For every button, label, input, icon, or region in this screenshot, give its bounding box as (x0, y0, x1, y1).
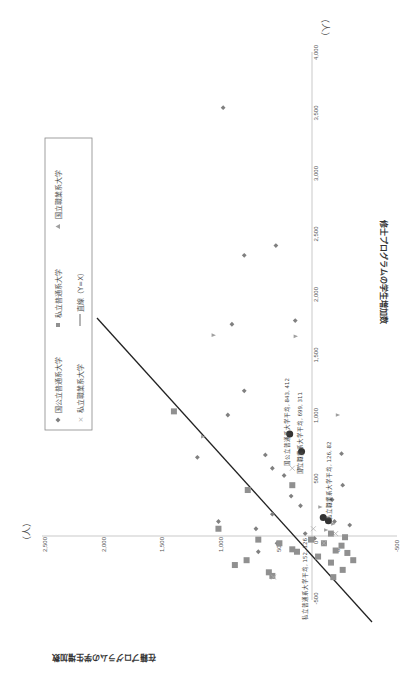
data-point-diamond (221, 105, 226, 110)
legend-label-national-vocational: 国立職業系大学 (54, 170, 63, 219)
y-axis-title: 在籍プログラムの学生増加数 (51, 653, 156, 663)
legend-label-reference-line: 直線（Y=X） (76, 269, 85, 312)
data-point-triangle (324, 528, 328, 532)
y-tick-label: 1,500 (159, 536, 165, 552)
y-tick-label: 1,000 (218, 536, 224, 552)
data-point-triangle (212, 333, 216, 337)
legend-x-icon: × (77, 417, 85, 423)
data-point-diamond (303, 531, 308, 536)
data-point-x (290, 466, 295, 471)
legend-label-private-general: 私立普通系大学 (54, 269, 63, 318)
x-tick-label: 3,500 (313, 105, 319, 121)
data-point-triangle (294, 335, 298, 339)
data-point-diamond (289, 494, 294, 499)
x-axis-title: 修士プログラムの学生増加数 (379, 219, 389, 325)
x-tick-label: 1,500 (313, 347, 319, 363)
x-tick-label: -500 (313, 592, 319, 605)
y-tick-label: 2,500 (42, 536, 48, 552)
data-point-square (308, 537, 314, 543)
x-axis-ticks: -50005001,0001,5002,0002,5003,0003,5004,… (313, 44, 319, 604)
data-point-diamond (270, 512, 275, 517)
data-point-square (255, 537, 261, 543)
annotation-national-general-avg: 国公立普通系大学平均, 843, 412 (283, 378, 291, 466)
data-point-diamond (254, 526, 259, 531)
y-axis-unit: （人） (22, 518, 32, 545)
data-point-diamond (339, 451, 344, 456)
data-point-triangle (336, 413, 340, 417)
data-point-diamond (263, 453, 268, 458)
data-point-diamond (282, 473, 287, 478)
annotation-private-general-avg: 私立普通系大学平均, 152, 126 (301, 538, 309, 620)
data-point-square (294, 549, 300, 555)
data-point-diamond (273, 243, 278, 248)
data-point-square (339, 543, 345, 549)
data-point-diamond (230, 322, 235, 327)
data-point-square (328, 560, 334, 566)
y-tick-label: 2,000 (101, 536, 107, 552)
data-point-square (340, 567, 346, 573)
data-point-diamond (242, 253, 247, 258)
annotation-private-vocational-avg: 私立職業系大学平均, 126, 82 (325, 442, 333, 521)
scatter-chart: -50005001,0001,5002,0002,5003,0003,5004,… (0, 0, 419, 677)
data-point-square (276, 540, 282, 546)
data-point-diamond (270, 466, 275, 471)
legend-label-national-general: 国公立普通系大学 (54, 357, 63, 413)
x-tick-label: 500 (313, 473, 319, 484)
data-point-diamond (298, 503, 303, 508)
data-point-diamond (347, 523, 352, 528)
data-point-diamond (216, 519, 221, 524)
data-point-diamond (293, 318, 298, 323)
data-point-square (342, 534, 348, 540)
x-tick-label: 3,000 (313, 165, 319, 181)
x-axis-unit: （人） (320, 14, 330, 41)
legend: 国公立普通系大学 私立普通系大学 国立職業系大学 × 私立職業系大学 直線（Y=… (45, 138, 92, 430)
data-point-square (289, 482, 295, 488)
legend-label-private-vocational: 私立職業系大学 (76, 364, 85, 413)
data-point-square (244, 557, 250, 563)
data-point-diamond (340, 483, 345, 488)
y-tick-label: -500 (394, 539, 400, 552)
x-tick-label: 2,500 (313, 226, 319, 242)
data-point-square (333, 548, 339, 554)
x-tick-label: 1,000 (313, 407, 319, 423)
data-point-diamond (195, 455, 200, 460)
data-point-square (215, 526, 221, 532)
legend-square-icon (56, 323, 60, 327)
data-point-square (245, 487, 251, 493)
data-point-diamond (242, 388, 247, 393)
data-point-diamond (256, 549, 261, 554)
data-point-square (330, 574, 336, 580)
data-point-square (315, 554, 321, 560)
annotation-national-vocational-avg: 国立職業系大学平均, 699, 311 (296, 392, 304, 474)
x-tick-label: 4,000 (313, 44, 319, 60)
data-point-square (232, 562, 238, 568)
data-point-square (344, 550, 350, 556)
data-point-diamond (225, 413, 230, 418)
data-point-triangle (318, 505, 322, 509)
x-tick-label: 2,000 (313, 286, 319, 302)
data-point-square (350, 557, 356, 563)
data-point-square (171, 408, 177, 414)
